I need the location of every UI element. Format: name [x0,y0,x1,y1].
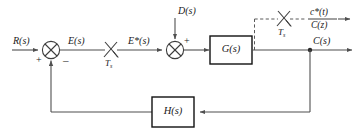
label-sampled-error: E*(s) [128,35,150,46]
label-sampled-output-z: C(z) [311,20,327,30]
input-sampler-switch [104,42,118,58]
error-summer [42,41,59,58]
label-sampled-output-time: c*(t) [310,7,328,17]
input-sampler-label-subscript: s [110,63,112,69]
error-summer-sign-plus: + [36,54,42,65]
disturbance-summer [166,41,183,58]
feedback-block-label: H(s) [152,105,194,116]
label-output: C(s) [313,35,330,46]
label-disturbance: D(s) [178,5,196,16]
input-sampler-label: Ts [105,58,112,69]
disturbance-summer-sign-plus: + [184,35,190,46]
error-summer-sign-minus: – [63,54,69,66]
label-reference-input: R(s) [13,35,30,46]
output-sampler-label-subscript: s [283,32,285,38]
output-sampler-switch [277,11,291,27]
block-diagram-canvas: R(s) E(s) E*(s) D(s) C(s) c*(t) C(z) G(s… [0,0,359,133]
output-sampler-label: Ts [278,27,285,38]
plant-block-label: G(s) [210,43,252,54]
label-error: E(s) [68,35,85,46]
wire-output-sample-tap [255,19,279,50]
